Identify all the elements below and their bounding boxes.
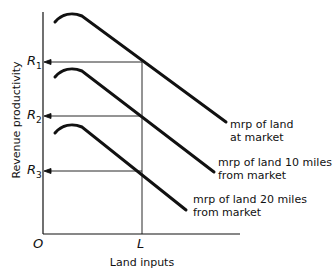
r-arrows (44, 60, 142, 174)
x-axis-label: Land inputs (110, 256, 175, 269)
r2-arrowhead (44, 114, 51, 119)
curve-2-label-line-2: from market (218, 169, 287, 182)
curve-3-label-line-1: mrp of land 20 miles (193, 193, 307, 206)
mrp-curves (55, 14, 226, 210)
curve-labels: mrp of landat marketmrp of land 10 miles… (193, 118, 332, 219)
y-tick-r3: R3 (27, 162, 42, 180)
r1-arrowhead (44, 60, 51, 65)
y-tick-r2: R2 (27, 107, 42, 125)
mrp-curve-2 (55, 69, 214, 172)
curve-3-label-line-2: from market (193, 206, 262, 219)
y-axis-label: Revenue productivity (10, 61, 23, 179)
curve-1-label-line-1: mrp of land (230, 118, 294, 131)
curve-1-label-line-2: at market (230, 131, 284, 144)
curve-2-label-line-1: mrp of land 10 miles (218, 156, 332, 169)
mrp-curve-3 (55, 125, 186, 210)
mrp-curve-1 (55, 14, 226, 122)
revenue-productivity-diagram: mrp of landat marketmrp of land 10 miles… (0, 0, 333, 274)
r3-arrowhead (44, 169, 51, 174)
origin-label: O (33, 236, 43, 251)
y-tick-r1: R1 (27, 53, 42, 71)
y-tick-labels: R1R2R3 (27, 53, 42, 180)
x-tick-l: L (137, 236, 144, 251)
